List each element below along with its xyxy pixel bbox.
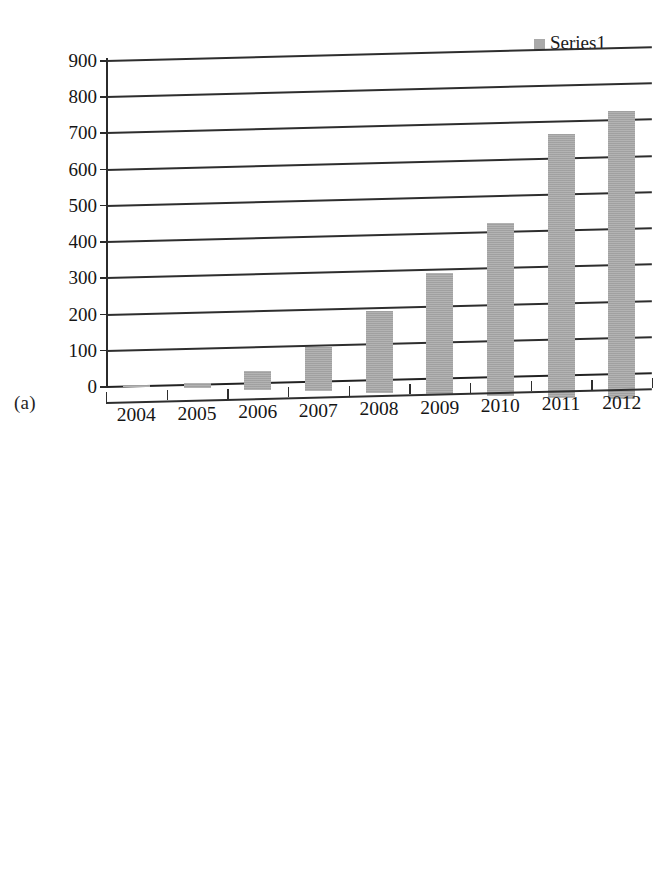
x-tick-mark <box>106 392 107 402</box>
x-tick-mark <box>227 389 228 399</box>
bar <box>123 385 150 387</box>
figure-two-bar-charts: Series1 0100200300400500600700800900 200… <box>0 0 660 876</box>
x-axis-label: 2010 <box>481 396 520 416</box>
x-axis-label: 2009 <box>420 398 459 418</box>
x-tick-mark <box>470 383 471 393</box>
bar <box>487 223 514 396</box>
x-axis-label: 2004 <box>117 405 156 425</box>
panel-caption-a: (a) <box>14 392 36 414</box>
bar <box>305 347 332 391</box>
chart-panel-a: Series1 0100200300400500600700800900 200… <box>0 0 660 438</box>
bar <box>426 273 453 394</box>
x-tick-mark <box>349 386 350 396</box>
y-axis-label: 900 <box>69 51 98 70</box>
y-axis-label: 700 <box>69 123 98 142</box>
x-axis-label: 2007 <box>299 401 338 421</box>
y-axis-label: 200 <box>69 304 98 323</box>
bar <box>366 311 393 393</box>
y-axis-label: 100 <box>69 340 98 359</box>
chart-panel-b: Series1 0102030405060708090100 200420052… <box>0 438 660 876</box>
y-axis-label: 600 <box>69 159 98 178</box>
y-axis-label: 500 <box>69 195 98 214</box>
y-axis-label: 800 <box>69 87 98 106</box>
x-axis-label: 2011 <box>542 394 580 414</box>
x-tick-mark <box>652 378 653 388</box>
bar <box>184 383 211 388</box>
x-axis-label: 2008 <box>360 399 399 419</box>
x-axis-label: 2012 <box>602 393 641 413</box>
y-axis-label: 400 <box>69 232 98 251</box>
bar <box>244 371 271 390</box>
bar <box>548 134 575 398</box>
x-tick-mark <box>409 384 410 394</box>
bars-a <box>106 60 652 386</box>
x-axis-label: 2006 <box>238 402 277 422</box>
y-tick-mark <box>100 386 107 388</box>
x-tick-mark <box>288 387 289 397</box>
y-axis-label: 300 <box>69 268 98 287</box>
legend-swatch-icon <box>534 39 545 50</box>
bar <box>608 111 635 399</box>
x-tick-mark <box>167 390 168 400</box>
x-tick-mark <box>531 381 532 391</box>
plot-area-a: 0100200300400500600700800900 20042005200… <box>106 60 652 386</box>
x-tick-mark <box>591 380 592 390</box>
x-axis-label: 2005 <box>178 404 217 424</box>
y-axis-label: 0 <box>88 377 98 396</box>
